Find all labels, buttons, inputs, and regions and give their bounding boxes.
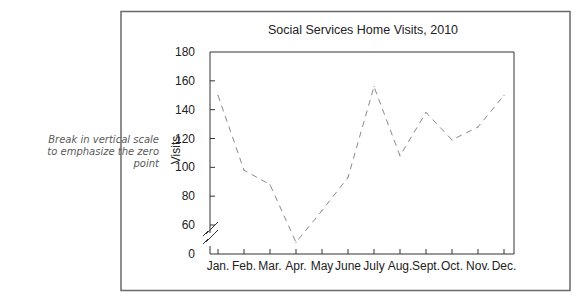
line-chart: Social Services Home Visits, 2010 Visits… (0, 0, 577, 297)
x-tick-label: Mar. (258, 259, 281, 273)
x-tick-label: Jan. (207, 259, 230, 273)
x-tick-label: Nov. (466, 259, 490, 273)
data-point (399, 155, 400, 156)
x-tick-label: Apr. (285, 259, 306, 273)
data-point (373, 86, 374, 87)
x-tick-label: Dec. (492, 259, 517, 273)
data-point (243, 170, 244, 171)
data-point (295, 242, 296, 243)
y-tick-label: 60 (182, 218, 196, 232)
data-point (217, 95, 218, 96)
data-point (451, 139, 452, 140)
y-tick-label: 100 (175, 160, 195, 174)
ticks: 06080100120140160180Jan.Feb.Mar.Apr.MayJ… (175, 45, 516, 273)
y-tick-label: 180 (175, 45, 195, 59)
x-tick-label: Sept. (412, 259, 440, 273)
data-point (503, 95, 504, 96)
y-tick-label: 140 (175, 103, 195, 117)
y-tick-label: 80 (182, 189, 196, 203)
x-tick-label: May (311, 259, 334, 273)
y-tick-label: 120 (175, 132, 195, 146)
x-tick-label: Feb. (232, 259, 256, 273)
series-line (218, 87, 504, 243)
data-point (425, 112, 426, 113)
chart-title: Social Services Home Visits, 2010 (268, 23, 458, 37)
data-point (347, 177, 348, 178)
x-tick-label: Oct. (441, 259, 463, 273)
axes (203, 52, 514, 254)
x-tick-label: July (363, 259, 384, 273)
x-tick-label: Aug. (388, 259, 413, 273)
data-point (477, 126, 478, 127)
y-tick-label: 0 (188, 247, 195, 261)
data-point (269, 184, 270, 185)
y-tick-label: 160 (175, 74, 195, 88)
series (217, 86, 504, 243)
x-tick-label: June (335, 259, 361, 273)
data-point (321, 210, 322, 211)
